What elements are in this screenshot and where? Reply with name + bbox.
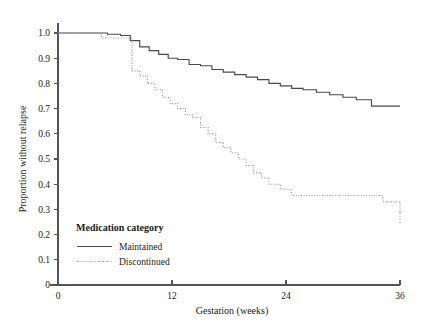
x-tick-label: 0 (56, 291, 61, 301)
x-tick-label: 36 (395, 291, 405, 301)
series-group (58, 33, 400, 223)
y-tick-label: 0.2 (38, 230, 50, 240)
y-axis-ticks: 00.10.20.30.40.50.60.70.80.91.0 (38, 28, 58, 290)
plot-area: 00.10.20.30.40.50.60.70.80.91.0 0122436 … (17, 23, 405, 317)
y-tick-label: 0.8 (38, 79, 50, 89)
y-tick-label: 0.1 (38, 255, 50, 265)
legend: Medication category Maintained Discontin… (76, 222, 170, 267)
legend-entry-maintained: Maintained (77, 242, 163, 252)
survival-curve-maintained (58, 33, 400, 106)
y-tick-label: 0.6 (38, 129, 50, 139)
y-tick-label: 0.9 (38, 54, 50, 64)
y-tick-label: 0.5 (38, 154, 50, 164)
kaplan-meier-chart: 00.10.20.30.40.50.60.70.80.91.0 0122436 … (0, 0, 422, 324)
legend-entry-discontinued: Discontinued (77, 257, 170, 267)
legend-title: Medication category (76, 222, 163, 233)
survival-curve-discontinued (58, 33, 400, 223)
y-tick-label: 0 (45, 280, 50, 290)
x-tick-label: 12 (167, 291, 177, 301)
y-tick-label: 0.3 (38, 205, 50, 215)
x-tick-label: 24 (281, 291, 291, 301)
x-axis-title: Gestation (weeks) (196, 305, 268, 317)
y-tick-label: 0.4 (38, 180, 50, 190)
y-axis-title: Proportion without relapse (17, 105, 28, 212)
y-tick-label: 1.0 (38, 28, 50, 38)
x-axis-ticks: 0122436 (56, 280, 405, 301)
y-tick-label: 0.7 (38, 104, 50, 114)
legend-label-maintained: Maintained (119, 242, 163, 252)
legend-label-discontinued: Discontinued (119, 257, 170, 267)
